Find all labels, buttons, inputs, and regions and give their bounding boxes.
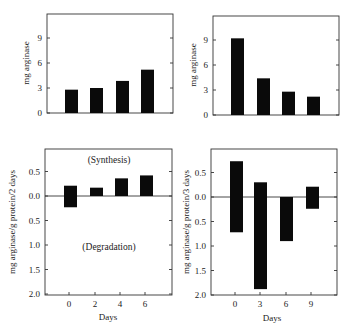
y-tick-label: 3 — [204, 85, 209, 95]
y-tick-label: 0.0 — [195, 192, 207, 202]
bar — [140, 175, 153, 196]
y-tick-label: 0.0 — [29, 191, 41, 201]
x-tick-label: 0 — [67, 299, 72, 309]
x-tick-label: 2 — [93, 299, 98, 309]
y-axis-title-top-left: mg arginase — [21, 41, 31, 85]
plot-frame — [45, 149, 172, 295]
y-tick-label: 9 — [204, 35, 209, 45]
panel-top-left: 0369 — [38, 14, 174, 118]
bar — [141, 70, 154, 113]
bar — [306, 187, 319, 209]
y-tick-label: 1.0 — [195, 241, 207, 251]
bar — [231, 38, 244, 115]
x-tick-label: 0 — [233, 299, 238, 309]
x-tick-label: 6 — [143, 299, 148, 309]
y-tick-label: 0.5 — [195, 168, 207, 178]
bar — [282, 92, 295, 115]
bar — [64, 186, 77, 208]
x-tick-label: 3 — [258, 299, 263, 309]
y-tick-label: 3 — [38, 83, 43, 93]
y-tick-label: 6 — [38, 58, 43, 68]
annotation-synthesis: (Synthesis) — [88, 155, 131, 166]
x-tick-label: 4 — [118, 299, 123, 309]
y-tick-label: 0 — [38, 108, 43, 118]
bar — [65, 90, 78, 113]
panel-bottom-right: 0.50.00.51.01.52.00369 — [195, 149, 337, 309]
y-tick-label: 0 — [204, 110, 209, 120]
bar — [254, 182, 267, 289]
y-tick-label: 2.0 — [29, 289, 41, 299]
x-tick-label: 9 — [309, 299, 314, 309]
y-tick-label: 1.0 — [29, 240, 41, 250]
panel-bottom-left: 0.50.00.51.01.52.00246 — [29, 149, 172, 309]
bar — [115, 178, 128, 196]
bar — [90, 188, 103, 196]
annotation-degradation: (Degradation) — [82, 242, 135, 253]
bar — [280, 197, 293, 241]
bar — [230, 161, 243, 232]
bar — [307, 97, 320, 115]
bar — [90, 88, 103, 113]
y-axis-title-top-right: mg arginase — [188, 43, 198, 87]
y-tick-label: 0.5 — [29, 167, 41, 177]
y-tick-label: 0.5 — [195, 217, 207, 227]
y-tick-label: 2.0 — [195, 290, 207, 300]
bar — [116, 81, 129, 113]
y-tick-label: 0.5 — [29, 216, 41, 226]
panel-top-right: 0369 — [204, 16, 340, 120]
plot-frame — [211, 149, 337, 295]
y-tick-label: 1.5 — [195, 266, 207, 276]
x-axis-title-bottom-left: Days — [99, 312, 118, 322]
y-tick-label: 1.5 — [29, 265, 41, 275]
bar — [257, 78, 270, 115]
y-tick-label: 9 — [38, 33, 43, 43]
figure: 0369 mg arginase 0369 mg arginase 0.50.0… — [0, 0, 353, 333]
y-axis-title-bottom-left: mg arginase/g protein/2 days — [7, 169, 17, 274]
x-axis-title-bottom-right: Days — [263, 313, 282, 323]
y-tick-label: 6 — [204, 60, 209, 70]
x-tick-label: 6 — [284, 299, 289, 309]
y-axis-title-bottom-right: mg arginase/g protein/3 days — [181, 169, 191, 274]
